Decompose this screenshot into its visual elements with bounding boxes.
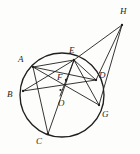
segment-A-D [33, 67, 96, 80]
segment-E-H [74, 25, 122, 60]
vertex-dot-B [22, 90, 24, 92]
point-label-G: G [102, 110, 109, 119]
vertex-dot-D [95, 79, 97, 81]
point-label-F: F [57, 73, 63, 82]
point-label-A: A [18, 55, 24, 64]
point-label-H: H [120, 7, 127, 16]
point-label-D: D [99, 71, 106, 80]
vertex-dot-A [32, 66, 34, 68]
segment-A-G [33, 67, 99, 105]
geometry-figure: ABCDEGFHO [0, 0, 140, 154]
vertex-dot-C [47, 133, 49, 135]
point-label-B: B [7, 90, 13, 99]
vertex-dot-F [65, 79, 67, 81]
vertex-dot-E [73, 59, 75, 61]
vertex-dot-G [98, 104, 100, 106]
diagram-canvas [0, 0, 140, 154]
segment-E-D [74, 60, 96, 80]
vertex-dot-H [121, 24, 123, 26]
point-label-O: O [58, 99, 65, 108]
point-label-E: E [69, 46, 75, 55]
center-dot-icon [59, 89, 61, 91]
point-label-C: C [36, 137, 42, 146]
segment-G-H [99, 25, 122, 105]
